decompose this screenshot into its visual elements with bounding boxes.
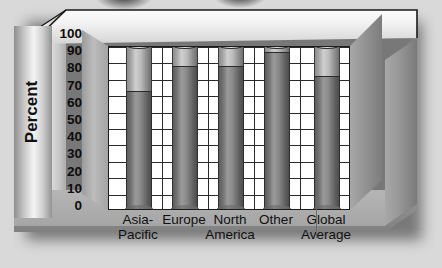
- global-average-divider: [316, 196, 317, 238]
- bar-cylinder: [172, 46, 198, 209]
- bar-value-segment: [264, 52, 290, 209]
- y-axis-tick-20: 20: [48, 166, 82, 178]
- y-axis-tick-80: 80: [48, 62, 82, 74]
- bar-base-ellipse: [313, 205, 341, 210]
- bar-base-ellipse: [217, 205, 245, 210]
- bar-cylinder: [218, 46, 244, 209]
- category-divider: [162, 47, 163, 209]
- category-divider: [300, 47, 301, 209]
- y-axis-tick-labels: 1009080706050403020100: [48, 34, 82, 206]
- bar-cylinder: [264, 46, 290, 209]
- bar-value-segment: [172, 66, 198, 209]
- bar-value-segment: [126, 91, 152, 209]
- y-axis-tick-50: 50: [48, 114, 82, 126]
- y-axis-tick-10: 10: [48, 183, 82, 195]
- y-axis-tick-70: 70: [48, 80, 82, 92]
- bar-cylinder: [314, 46, 340, 209]
- x-axis-category-labels: Asia-PacificEuropeNorthAmericaOtherGloba…: [14, 212, 418, 258]
- y-axis-tick-40: 40: [48, 131, 82, 143]
- x-axis-label-line: Average: [301, 227, 351, 242]
- y-axis-tick-60: 60: [48, 97, 82, 109]
- category-divider: [208, 47, 209, 209]
- plot-area: [108, 46, 350, 210]
- plot-right-depth-wall: [350, 14, 384, 212]
- y-axis-tick-100: 100: [48, 28, 82, 40]
- y-axis-tick-30: 30: [48, 148, 82, 160]
- x-axis-label-line: Global: [306, 212, 345, 227]
- background-smudge: [214, 0, 266, 8]
- plot-left-depth-wall: [82, 30, 108, 210]
- bar-base-ellipse: [263, 205, 291, 210]
- bar-value-segment: [218, 66, 244, 209]
- y-axis-title: Percent: [22, 32, 42, 192]
- bar-base-ellipse: [125, 205, 153, 210]
- y-axis-panel: Percent: [14, 26, 52, 218]
- x-axis-label: GlobalAverage: [281, 212, 371, 242]
- bar-cylinder: [126, 46, 152, 209]
- bar-value-segment: [314, 76, 340, 209]
- y-axis-tick-90: 90: [48, 45, 82, 57]
- x-axis-label-line: Pacific: [118, 227, 158, 242]
- y-axis-tick-0: 0: [48, 200, 82, 212]
- x-axis-label-line: America: [205, 227, 255, 242]
- category-divider: [254, 47, 255, 209]
- bar-base-ellipse: [171, 205, 199, 210]
